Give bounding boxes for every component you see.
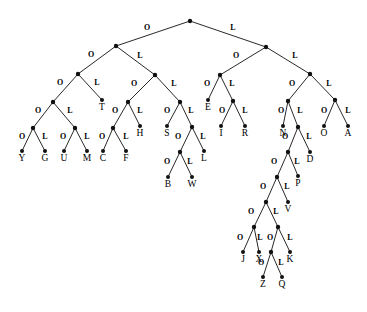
edge-label-o: O	[248, 207, 254, 216]
tree-diagram-container: OLOLOLOLOLOLOLOLOLOLOLOLOLOLOLOLOLOLOLOL…	[0, 0, 367, 312]
edge-label-l: L	[67, 106, 72, 115]
edge-label-l: L	[345, 106, 350, 115]
tree-internal-node	[178, 100, 182, 104]
tree-internal-node	[111, 126, 115, 130]
leaf-label-a: A	[345, 128, 352, 138]
edge-label-o: O	[237, 233, 243, 242]
edge-label-o: O	[88, 50, 94, 59]
leaf-label-v: V	[285, 204, 292, 214]
leaf-label-u: U	[61, 153, 68, 163]
leaf-label-s: S	[164, 128, 169, 138]
tree-internal-node	[275, 175, 279, 179]
leaf-label-t: T	[99, 102, 105, 112]
edge-label-o: O	[131, 79, 137, 88]
tree-internal-node	[126, 100, 130, 104]
edge-label-o: O	[60, 132, 66, 141]
leaf-label-l: L	[201, 153, 207, 163]
edge-label-o: O	[289, 79, 295, 88]
tree-internal-node	[264, 200, 268, 204]
leaf-label-k: K	[287, 254, 294, 264]
edge-label-l: L	[137, 51, 142, 60]
edge-label-o: O	[19, 132, 25, 141]
tree-internal-node	[188, 19, 192, 23]
edge-label-l: L	[297, 106, 302, 115]
leaf-label-m: M	[83, 153, 92, 163]
edge-label-l: L	[84, 132, 89, 141]
edge-label-l: L	[278, 258, 283, 267]
tree-internal-node	[51, 100, 55, 104]
tree-internal-node	[333, 98, 337, 102]
edge-label-o: O	[321, 106, 327, 115]
edge-label-l: L	[292, 51, 297, 60]
edge-label-o: O	[260, 182, 266, 191]
tree-internal-node	[73, 126, 77, 130]
leaf-label-y: Y	[19, 153, 26, 163]
edge-label-o: O	[267, 233, 273, 242]
tree-internal-node	[276, 225, 280, 229]
leaf-label-b: B	[165, 179, 171, 189]
tree-internal-node	[190, 125, 194, 129]
leaf-label-h: H	[137, 128, 144, 138]
edge-label-l: L	[123, 132, 128, 141]
tree-internal-node	[308, 72, 312, 76]
tree-internal-node	[31, 126, 35, 130]
leaf-label-i: I	[219, 128, 222, 138]
edge-label-l: L	[229, 79, 234, 88]
leaf-label-p: P	[295, 178, 300, 188]
edge-label-o: O	[271, 157, 277, 166]
edge-label-l: L	[306, 132, 311, 141]
tree-internal-node	[218, 73, 222, 77]
edge-label-o: O	[57, 78, 63, 87]
edge-label-l: L	[284, 182, 289, 191]
edge-label-o: O	[219, 106, 225, 115]
edge-label-o: O	[164, 157, 170, 166]
tree-internal-node	[286, 99, 290, 103]
leaf-label-f: F	[123, 153, 128, 163]
leaf-label-z: Z	[260, 279, 266, 289]
edge-label-o: O	[99, 132, 105, 141]
tree-internal-node	[269, 250, 273, 254]
leaf-label-d: D	[307, 154, 314, 164]
edge-label-l: L	[171, 79, 176, 88]
edge-label-o: O	[112, 106, 118, 115]
leaf-label-q: Q	[279, 279, 286, 289]
edge-label-o: O	[204, 79, 210, 88]
tree-internal-node	[76, 72, 80, 76]
edge-label-l: L	[188, 106, 193, 115]
edge-label-l: L	[42, 132, 47, 141]
edge-label-o: O	[164, 106, 170, 115]
edge-label-o: O	[144, 23, 150, 32]
tree-internal-node	[296, 125, 300, 129]
tree-internal-node	[286, 150, 290, 154]
tree-internal-node	[153, 73, 157, 77]
tree-internal-node	[231, 99, 235, 103]
edge-label-l: L	[287, 233, 292, 242]
edge-label-o: O	[233, 51, 239, 60]
tree-internal-node	[264, 45, 268, 49]
binary-tree-figure: OLOLOLOLOLOLOLOLOLOLOLOLOLOLOLOLOLOLOLOL…	[0, 0, 367, 312]
tree-internal-node	[178, 150, 182, 154]
leaf-label-c: C	[100, 153, 106, 163]
edge-label-l: L	[294, 157, 299, 166]
edge-label-o: O	[278, 106, 284, 115]
edge-label-l: L	[257, 233, 262, 242]
edge-label-l: L	[326, 79, 331, 88]
edge-label-l: L	[187, 157, 192, 166]
leaf-label-e: E	[205, 102, 211, 112]
tree-internal-node	[252, 225, 256, 229]
edge-label-o: O	[175, 132, 181, 141]
leaf-label-o: O	[321, 128, 328, 138]
leaf-label-w: W	[188, 179, 197, 189]
leaf-label-x: X	[256, 254, 263, 264]
edge-label-o: O	[35, 106, 41, 115]
edge-label-l: L	[273, 207, 278, 216]
edge-label-l: L	[242, 106, 247, 115]
leaf-label-j: J	[241, 254, 245, 264]
edge-label-l: L	[94, 78, 99, 87]
leaf-label-n: N	[280, 128, 287, 138]
leaf-label-r: R	[242, 128, 249, 138]
edge-label-l: L	[137, 106, 142, 115]
tree-internal-node	[114, 44, 118, 48]
edge-label-l: L	[200, 132, 205, 141]
leaf-label-g: G	[42, 153, 49, 163]
